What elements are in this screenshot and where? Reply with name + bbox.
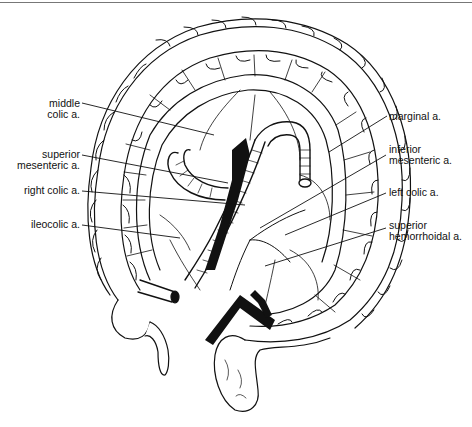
label-superior-mesenteric: superior mesenteric a. xyxy=(17,149,80,171)
leader-superior-hemorrhoidal xyxy=(265,228,386,266)
leader-right-colic xyxy=(82,191,245,205)
anatomy-figure: middle colic a. superior mesenteric a. r… xyxy=(0,0,472,427)
label-superior-hemorrhoidal: superior hemorrhoidal a. xyxy=(389,220,462,242)
label-left-colic: left colic a. xyxy=(389,187,439,198)
colon-inner-wall xyxy=(121,51,378,327)
cecum xyxy=(112,300,150,339)
label-middle-colic: middle colic a. xyxy=(47,98,80,120)
colon-illustration xyxy=(0,0,472,427)
leader-left-colic xyxy=(285,193,386,235)
aorta xyxy=(205,138,250,270)
leader-superior-mesenteric xyxy=(82,155,228,183)
leader-marginal xyxy=(329,116,387,152)
appendix xyxy=(145,322,169,375)
marginal-artery xyxy=(137,75,346,315)
label-marginal: marginal a. xyxy=(389,111,441,122)
label-ileocolic: ileocolic a. xyxy=(31,219,80,230)
sigmoid-rectum xyxy=(214,336,330,412)
label-inferior-mesenteric: inferior mesenteric a. xyxy=(389,144,452,166)
label-right-colic: right colic a. xyxy=(24,185,80,196)
leader-inferior-mesenteric xyxy=(260,155,386,228)
